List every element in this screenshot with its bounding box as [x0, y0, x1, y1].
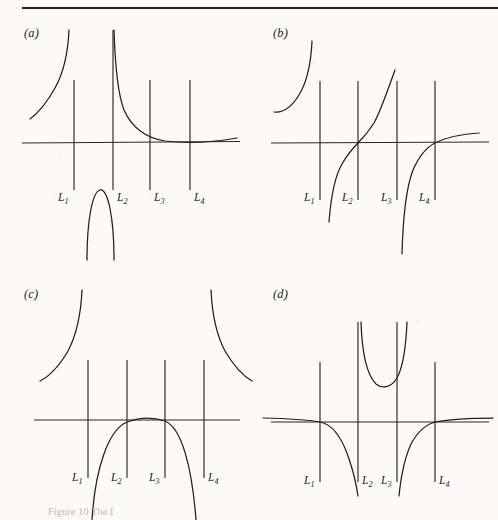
- asymptote-label-a-1: L1: [57, 191, 68, 206]
- asymptote-label-d-1: L1: [303, 474, 314, 489]
- asymptote-label-d-4: L4: [438, 474, 449, 489]
- asymptote-label-a-2: L2: [116, 191, 127, 206]
- panel-a: (a) L1 L2 L3: [0, 0, 249, 260]
- panel-d: (d) L1 L2 L3: [249, 260, 498, 520]
- asymptote-label-d-3: L3: [380, 474, 391, 489]
- asymptote-label-b-1: L1: [303, 191, 314, 206]
- panel-b: (b) L1 L2 L3: [249, 0, 498, 260]
- figure-page: (a) L1 L2 L3: [0, 0, 498, 520]
- asymptote-label-b-2: L2: [341, 191, 352, 206]
- panel-d-labels: L1 L2 L3 L4: [249, 260, 498, 520]
- asymptote-label-b-3: L3: [380, 191, 391, 206]
- panel-c: (c) L1 L2 L3: [0, 260, 249, 520]
- asymptote-label-b-4: L4: [418, 191, 429, 206]
- asymptote-label-a-3: L3: [153, 191, 164, 206]
- asymptote-label-c-2: L2: [110, 471, 121, 486]
- asymptote-label-a-4: L4: [193, 191, 204, 206]
- figure-caption: Figure 10 The f: [48, 506, 478, 517]
- asymptote-label-c-4: L4: [207, 471, 218, 486]
- asymptote-label-d-2: L2: [361, 474, 372, 489]
- panel-a-labels: L1 L2 L3 L4: [0, 0, 249, 260]
- asymptote-label-c-1: L1: [71, 471, 82, 486]
- asymptote-label-c-3: L3: [148, 471, 159, 486]
- panel-b-labels: L1 L2 L3 L4: [249, 0, 498, 260]
- panel-c-labels: L1 L2 L3 L4: [0, 260, 249, 520]
